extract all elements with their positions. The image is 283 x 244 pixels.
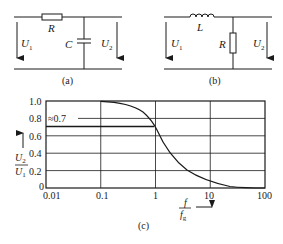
caption-a: (a) xyxy=(62,75,73,87)
x-tick-0-01: 0.01 xyxy=(43,190,61,201)
x-axis-label: f fg xyxy=(179,197,191,222)
u2-label-a: U2 xyxy=(101,37,113,52)
capacitor-label: C xyxy=(65,38,73,50)
figure: R C U1 U2 (a) L R U1 U2 (b) ≈0.7 1.0 0.8… xyxy=(0,0,283,244)
resistor-label-b: R xyxy=(218,38,226,50)
resistor-symbol xyxy=(42,14,62,20)
svg-text:U1: U1 xyxy=(15,166,26,179)
y-axis-label: U2 U1 xyxy=(15,152,28,179)
resistor-symbol-b xyxy=(230,33,236,53)
y-tick-0-2: 0.2 xyxy=(29,166,42,177)
y-tick-0-4: 0.4 xyxy=(29,148,42,159)
y-tick-0-6: 0.6 xyxy=(29,131,42,142)
inductor-symbol xyxy=(190,14,214,17)
caption-c: (c) xyxy=(138,220,149,232)
chart-grid xyxy=(46,101,265,188)
x-tick-100: 100 xyxy=(257,190,272,201)
svg-text:f: f xyxy=(184,197,188,208)
caption-b: (b) xyxy=(209,75,221,87)
u1-label-a: U1 xyxy=(21,37,33,52)
inductor-label: L xyxy=(196,21,203,33)
u1-label-b: U1 xyxy=(171,37,183,52)
y-tick-0-8: 0.8 xyxy=(29,113,42,124)
y-tick-1-0: 1.0 xyxy=(29,96,42,107)
resistor-label-a: R xyxy=(47,22,55,34)
x-tick-10: 10 xyxy=(204,190,214,201)
svg-text:U2: U2 xyxy=(15,152,26,165)
x-tick-1: 1 xyxy=(153,190,158,201)
svg-text:fg: fg xyxy=(180,209,187,222)
u2-label-b: U2 xyxy=(253,37,265,52)
x-tick-0-1: 0.1 xyxy=(96,190,109,201)
cutoff-annotation: ≈0.7 xyxy=(48,113,66,124)
response-curve xyxy=(101,101,265,188)
